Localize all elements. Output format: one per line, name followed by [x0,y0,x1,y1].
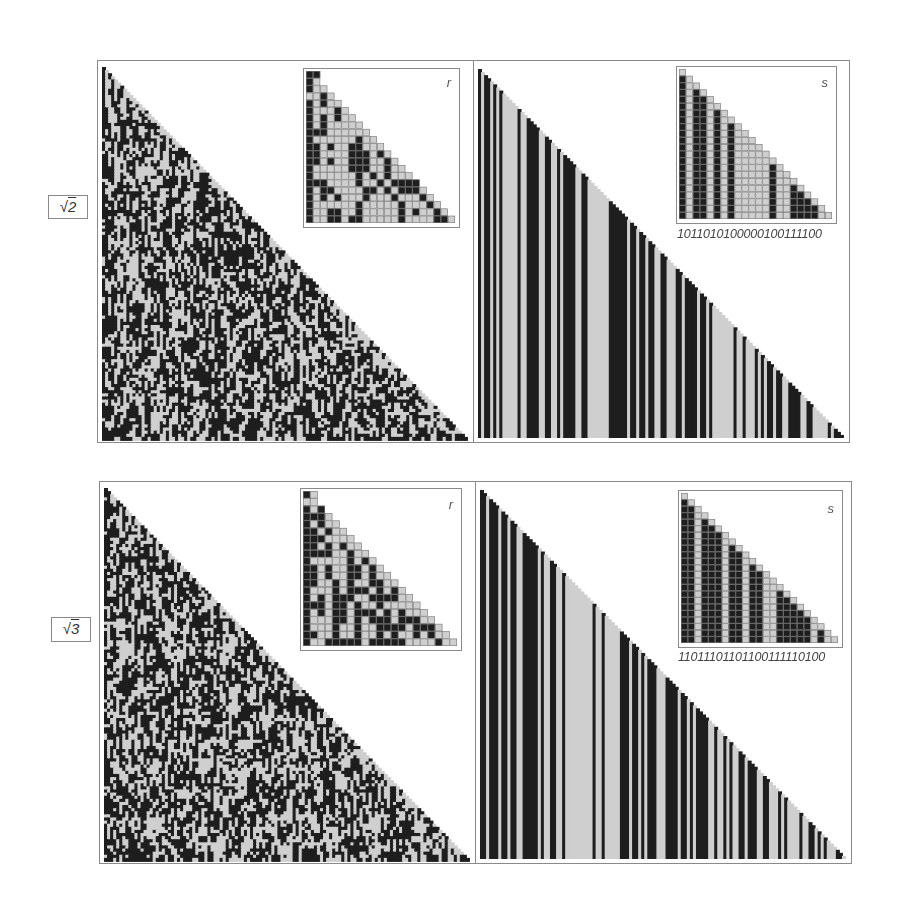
r-panel-sqrt3: r [99,481,476,864]
radicand: 3 [71,620,79,637]
inset-letter-r: r [447,75,451,90]
label-sqrt3: √3 [51,617,91,642]
inset-letter-s: s [828,501,835,516]
r-inset-grid [304,69,459,227]
r-panel-sqrt2: r [97,60,474,443]
s-inset-grid [679,491,842,647]
radical-sign: √ [63,620,71,637]
s-panel-sqrt3: s 11011101101100111110100 [475,481,852,864]
binary-digits-sqrt2: 1011010100000100111100 [677,227,822,241]
s-inset-sqrt3: s [678,490,843,648]
r-inset-sqrt3: r [300,488,462,651]
radical-sign: √ [60,198,68,215]
binary-digits-sqrt3: 11011101101100111110100 [678,650,825,664]
r-inset-grid [301,489,461,650]
r-inset-sqrt2: r [303,68,460,228]
s-panel-sqrt2: s 1011010100000100111100 [473,60,850,443]
radicand: 2 [68,198,76,215]
s-inset-sqrt2: s [676,66,837,224]
inset-letter-s: s [822,75,829,90]
inset-letter-r: r [449,497,453,512]
s-inset-grid [677,67,836,223]
label-sqrt2: √2 [48,195,88,219]
